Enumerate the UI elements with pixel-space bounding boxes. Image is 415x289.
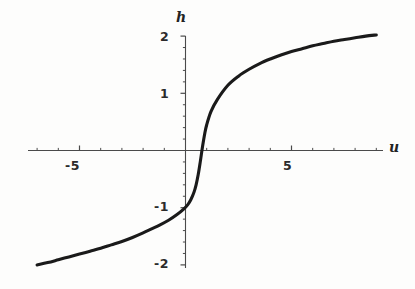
y-tick-label-2: 2	[160, 31, 169, 44]
y-tick-label-1: 1	[160, 88, 169, 101]
plot-figure: 2 1 -1 -2 -5 5 h u	[0, 0, 415, 289]
axes-group	[28, 36, 383, 268]
y-axis-label: h	[176, 10, 186, 24]
y-tick-label-neg2: -2	[154, 258, 169, 271]
y-tick-label-neg1: -1	[154, 201, 169, 214]
x-tick-label-neg5: -5	[65, 160, 80, 173]
plot-canvas	[0, 0, 415, 289]
x-tick-label-5: 5	[283, 160, 292, 173]
x-axis-ticks	[37, 146, 376, 151]
x-axis-label: u	[389, 140, 399, 154]
